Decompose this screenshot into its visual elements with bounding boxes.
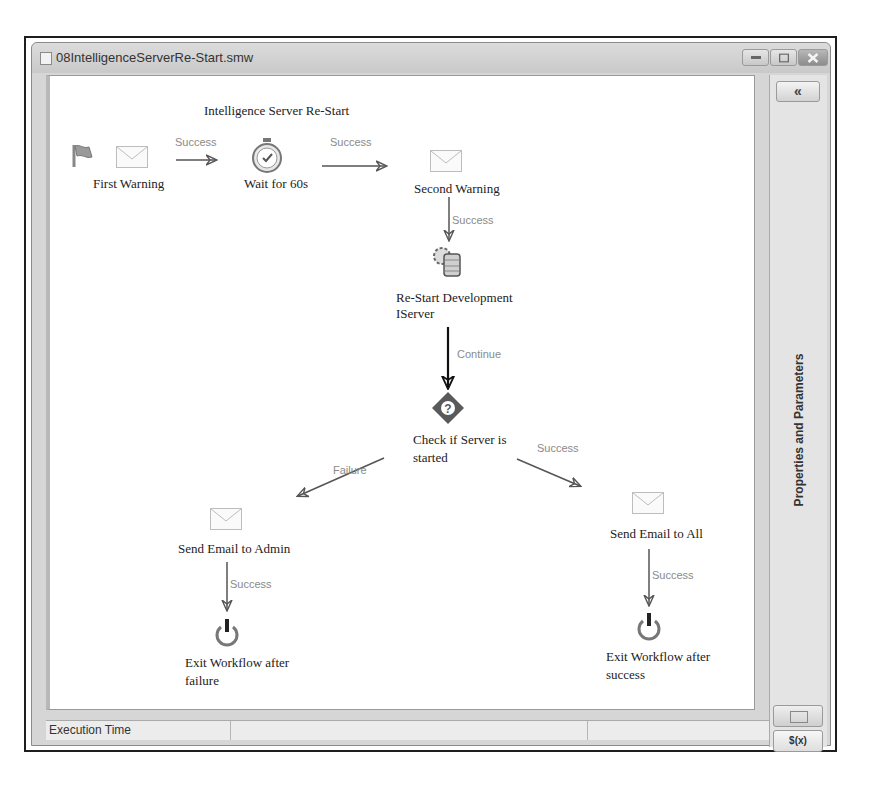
status-cell-2 bbox=[231, 721, 588, 740]
status-cell-3 bbox=[588, 721, 769, 740]
window-title: 08IntelligenceServerRe-Start.smw bbox=[56, 50, 253, 65]
properties-view-button[interactable] bbox=[773, 705, 823, 727]
node-label-exit-failure-line2: failure bbox=[185, 672, 219, 689]
node-label-restart-line1: Re-Start Development bbox=[396, 289, 513, 306]
node-label-exit-failure-line1: Exit Workflow after bbox=[185, 654, 289, 671]
edge-label: Failure bbox=[333, 464, 367, 476]
node-restart[interactable] bbox=[432, 246, 466, 280]
server-gear-icon bbox=[432, 246, 466, 280]
status-bar: Execution Time bbox=[46, 720, 769, 740]
node-email-all[interactable] bbox=[632, 492, 664, 514]
envelope-icon bbox=[116, 146, 148, 168]
node-label-exit-success-line2: success bbox=[606, 666, 645, 683]
properties-panel: « Properties and Parameters $(x) bbox=[769, 75, 827, 747]
edge-label: Success bbox=[537, 442, 579, 454]
envelope-icon bbox=[430, 150, 462, 172]
minimize-icon bbox=[751, 56, 761, 60]
node-label-second-warning: Second Warning bbox=[414, 180, 500, 197]
node-second-warning[interactable] bbox=[430, 150, 462, 172]
document-icon bbox=[40, 52, 52, 65]
node-label-check-line2: started bbox=[413, 449, 448, 466]
edge-label: Success bbox=[452, 214, 494, 226]
edge-label: Success bbox=[652, 569, 694, 581]
edge-label: Success bbox=[175, 136, 217, 148]
node-label-first-warning: First Warning bbox=[93, 175, 164, 192]
maximize-icon bbox=[779, 53, 789, 62]
window-icon bbox=[790, 711, 808, 723]
edge-label: Success bbox=[330, 136, 372, 148]
svg-text:?: ? bbox=[444, 402, 451, 416]
parameters-function-button[interactable]: $(x) bbox=[773, 730, 823, 752]
start-flag-icon bbox=[71, 143, 95, 169]
node-label-email-admin: Send Email to Admin bbox=[178, 540, 290, 557]
status-execution-time: Execution Time bbox=[46, 721, 231, 740]
node-check[interactable]: ? bbox=[431, 391, 465, 425]
node-exit-failure[interactable] bbox=[214, 618, 240, 648]
decision-diamond-icon: ? bbox=[431, 391, 465, 425]
node-first-warning[interactable] bbox=[116, 146, 148, 168]
title-bar: 08IntelligenceServerRe-Start.smw bbox=[32, 43, 830, 73]
node-label-check-line1: Check if Server is bbox=[413, 431, 507, 448]
envelope-icon bbox=[210, 508, 242, 530]
close-icon bbox=[808, 53, 819, 63]
stopwatch-icon bbox=[250, 138, 284, 174]
power-icon bbox=[214, 618, 240, 648]
node-label-wait: Wait for 60s bbox=[244, 175, 308, 192]
edge-label: Continue bbox=[457, 348, 501, 360]
node-label-email-all: Send Email to All bbox=[610, 525, 703, 542]
diagram-title: Intelligence Server Re-Start bbox=[204, 103, 349, 119]
close-button[interactable] bbox=[798, 49, 828, 66]
minimize-button[interactable] bbox=[742, 49, 769, 66]
maximize-button[interactable] bbox=[770, 49, 797, 66]
properties-panel-title[interactable]: Properties and Parameters bbox=[792, 354, 806, 507]
collapse-panel-button[interactable]: « bbox=[776, 81, 820, 102]
edge-label: Success bbox=[230, 578, 272, 590]
node-email-admin[interactable] bbox=[210, 508, 242, 530]
envelope-icon bbox=[632, 492, 664, 514]
node-label-exit-success-line1: Exit Workflow after bbox=[606, 648, 710, 665]
node-exit-success[interactable] bbox=[636, 612, 662, 642]
power-icon bbox=[636, 612, 662, 642]
node-wait[interactable] bbox=[250, 138, 284, 174]
node-label-restart-line2: IServer bbox=[396, 305, 434, 322]
